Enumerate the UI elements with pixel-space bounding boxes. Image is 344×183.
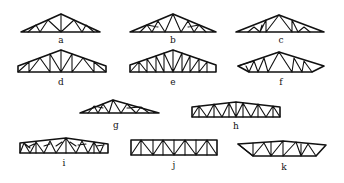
truss-j: j — [131, 140, 217, 170]
truss-diagram: a b c d e f g h — [0, 0, 344, 183]
truss-k-label: k — [281, 162, 287, 172]
truss-i: i — [20, 138, 108, 168]
truss-b-label: b — [170, 35, 176, 45]
truss-a-label: a — [58, 35, 64, 45]
truss-f-label: f — [279, 77, 283, 87]
truss-d-label: d — [58, 77, 64, 87]
truss-g-label: g — [113, 120, 119, 130]
truss-d: d — [18, 50, 106, 87]
truss-h-label: h — [233, 121, 239, 131]
truss-i-label: i — [63, 158, 66, 168]
truss-g: g — [80, 100, 159, 130]
truss-c-label: c — [278, 35, 283, 45]
truss-j-label: j — [172, 160, 176, 170]
truss-b: b — [130, 14, 216, 45]
truss-k: k — [238, 141, 326, 172]
truss-e-label: e — [170, 77, 175, 87]
truss-a: a — [21, 14, 100, 45]
truss-f: f — [238, 52, 324, 87]
truss-h: h — [192, 102, 280, 131]
truss-e: e — [130, 50, 216, 87]
truss-c: c — [236, 15, 324, 45]
